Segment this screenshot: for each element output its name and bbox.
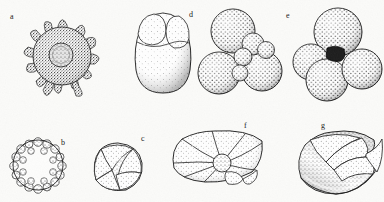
specimen-label-a: a	[10, 13, 14, 21]
specimen-f-rotaliid	[173, 131, 262, 185]
specimen-e2-aperture	[326, 46, 345, 61]
plate-drawing	[0, 0, 384, 202]
specimen-e-globigerinid-cluster	[198, 9, 282, 94]
specimen-label-c: c	[141, 135, 145, 143]
specimen-label-f: f	[244, 122, 247, 130]
specimen-label-d: d	[189, 11, 193, 19]
specimen-d-biloculine	[135, 13, 191, 93]
specimen-label-g: g	[321, 122, 325, 130]
specimen-e-globigerinid-aperture	[293, 8, 382, 101]
specimen-c-spiral-coil	[94, 143, 142, 191]
specimen-label-e: e	[286, 12, 290, 20]
specimen-a-radiolarian	[24, 20, 99, 97]
specimen-d-chamber-left	[138, 14, 166, 45]
specimen-f-umbilicus	[213, 154, 231, 172]
specimen-label-b: b	[61, 139, 65, 147]
specimen-g-nautiloid	[299, 131, 383, 194]
illustration-plate: a d e b c f g	[0, 0, 384, 202]
specimen-b-orbulina	[10, 138, 66, 194]
